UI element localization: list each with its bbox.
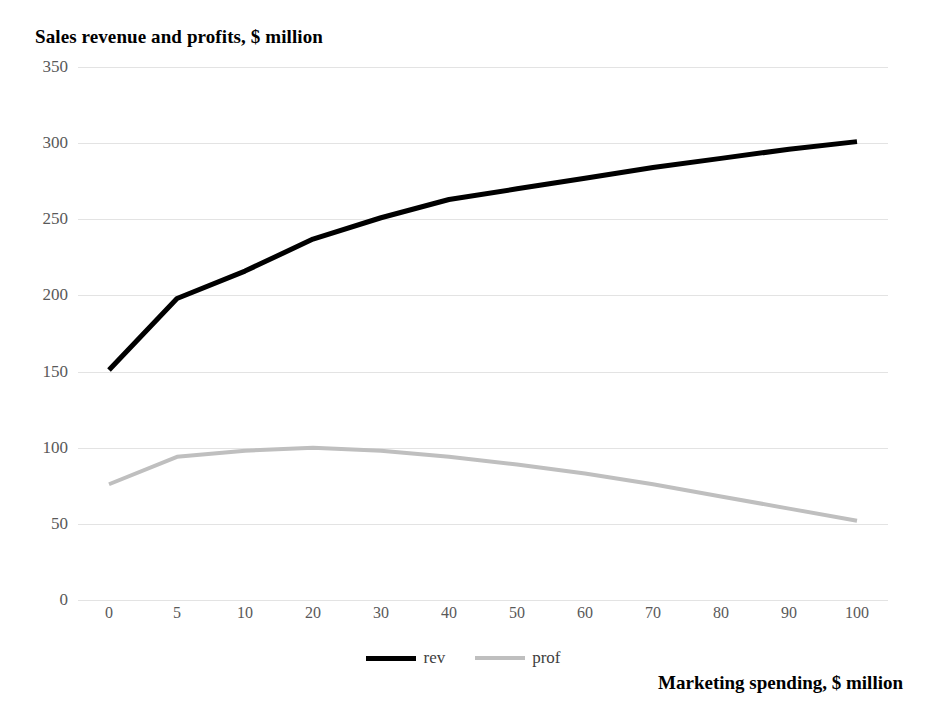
chart-title: Sales revenue and profits, $ million xyxy=(35,26,323,48)
y-tick-label: 350 xyxy=(43,57,69,77)
x-tick-label: 60 xyxy=(577,604,593,622)
chart-container: Sales revenue and profits, $ million 050… xyxy=(0,0,927,722)
y-tick-label: 250 xyxy=(43,209,69,229)
x-tick-label: 5 xyxy=(173,604,181,622)
x-tick-label: 40 xyxy=(441,604,457,622)
chart-legend: revprof xyxy=(0,648,927,668)
plot-area xyxy=(78,67,888,600)
gridline xyxy=(78,600,888,601)
y-axis: 050100150200250300350 xyxy=(0,67,68,600)
x-axis: 05102030405060708090100 xyxy=(78,604,888,630)
x-tick-label: 70 xyxy=(645,604,661,622)
series-layer xyxy=(78,67,888,600)
x-tick-label: 50 xyxy=(509,604,525,622)
x-tick-label: 90 xyxy=(781,604,797,622)
x-tick-label: 20 xyxy=(305,604,321,622)
x-axis-title: Marketing spending, $ million xyxy=(658,672,903,694)
x-tick-label: 30 xyxy=(373,604,389,622)
series-line-rev xyxy=(109,142,857,370)
legend-item-prof[interactable]: prof xyxy=(475,648,560,668)
y-tick-label: 300 xyxy=(43,133,69,153)
y-tick-label: 50 xyxy=(51,514,68,534)
y-tick-label: 100 xyxy=(43,438,69,458)
series-line-prof xyxy=(109,448,857,521)
x-tick-label: 100 xyxy=(845,604,869,622)
legend-label-prof: prof xyxy=(532,648,560,668)
legend-swatch-rev xyxy=(366,656,416,661)
legend-label-rev: rev xyxy=(423,648,445,668)
legend-item-rev[interactable]: rev xyxy=(366,648,445,668)
x-tick-label: 0 xyxy=(105,604,113,622)
x-tick-label: 80 xyxy=(713,604,729,622)
y-tick-label: 0 xyxy=(60,590,69,610)
y-tick-label: 150 xyxy=(43,362,69,382)
x-tick-label: 10 xyxy=(237,604,253,622)
legend-swatch-prof xyxy=(475,656,525,660)
y-tick-label: 200 xyxy=(43,285,69,305)
